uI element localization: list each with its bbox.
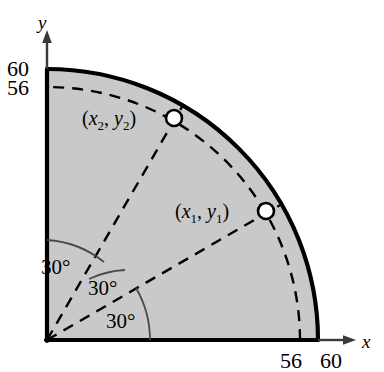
x-axis-label: x [361,331,371,352]
angle-label-middle: 30° [88,276,117,300]
y-tick-label-56: 56 [7,75,29,100]
x-tick-label-60: 60 [320,348,342,372]
point-label-x1y1-x: x [181,200,191,222]
x-tick-label-56: 56 [280,348,302,372]
quarter-circle-diagram: y x 60 56 56 60 30° 30° 30° (x2, y2) (x1… [0,0,384,372]
angle-label-top: 30° [41,255,70,279]
x-axis-arrowhead [343,335,356,345]
point-marker-x2y2[interactable] [166,110,182,126]
figure-container: y x 60 56 56 60 30° 30° 30° (x2, y2) (x1… [0,0,384,372]
point-label-x1y1-y: y [205,200,216,223]
point-label-x2y2-y: y [112,107,123,130]
point-label-x2y2-comma: , [104,107,114,129]
point-label-x2y2-close: ) [129,107,136,130]
angle-label-bottom: 30° [106,309,135,333]
y-axis-label: y [36,12,47,33]
point-marker-x1y1[interactable] [258,203,274,219]
point-label-x1y1-comma: , [197,200,207,222]
point-label-x2y2-x: x [88,107,98,129]
point-label-x1y1-close: ) [222,200,229,223]
